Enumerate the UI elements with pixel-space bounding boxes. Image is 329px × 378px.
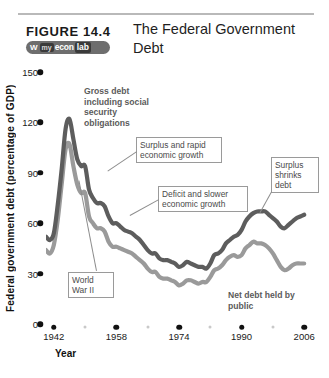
annotation-surplus-rapid-growth: Surplus and rapid economic growth (136, 137, 222, 163)
x-tick-label: 1942 (43, 331, 64, 342)
x-tick-label: 1958 (106, 331, 127, 342)
x-tick-label: 1974 (168, 331, 189, 342)
x-tick-label: 2006 (294, 331, 315, 342)
y-tick-marker (37, 220, 43, 226)
x-tick-marker (301, 324, 307, 330)
page-title: The Federal Government Debt (133, 20, 313, 58)
y-tick-marker (37, 120, 43, 126)
y-tick-label: 120 (22, 117, 38, 128)
x-tick-marker (239, 324, 245, 330)
y-tick-label: 150 (22, 67, 38, 78)
annotation-gross-debt: Gross debt including social security obl… (84, 86, 156, 128)
brand-my-label: my (40, 43, 54, 52)
x-tick-marker (51, 324, 57, 330)
annotation-world-war-ii: World War II (68, 272, 114, 298)
y-tick-marker (37, 271, 43, 277)
annotation-surplus-shrinks-debt: Surplus shrinks debt (271, 157, 319, 193)
annotation-deficit-slower-growth: Deficit and slower economic growth (158, 186, 248, 212)
figure-number-label: FIGURE 14.4 (26, 24, 111, 39)
brand-lab-label: lab (75, 42, 91, 53)
y-tick-marker (37, 69, 43, 75)
w-mark-icon: W (26, 44, 40, 52)
x-tick-marker-minor (271, 326, 274, 329)
y-axis-title: Federal government debt (percentage of G… (5, 72, 16, 324)
figure-root: FIGURE 14.4 W my econ lab The Federal Go… (0, 0, 329, 378)
annotation-net-debt: Net debt held by public (228, 290, 296, 311)
header-divider (18, 13, 314, 15)
x-tick-marker (176, 324, 182, 330)
x-axis-title: Year (55, 348, 76, 359)
x-tick-marker-minor (209, 326, 212, 329)
y-tick-marker (37, 321, 43, 327)
x-tick-marker-minor (146, 326, 149, 329)
myeconlab-logo[interactable]: W my econ lab (26, 41, 110, 54)
brand-econ-label: econ (54, 43, 74, 52)
y-tick-marker (37, 170, 43, 176)
x-tick-marker (114, 324, 120, 330)
x-tick-marker-minor (84, 326, 87, 329)
x-tick-label: 1990 (231, 331, 252, 342)
